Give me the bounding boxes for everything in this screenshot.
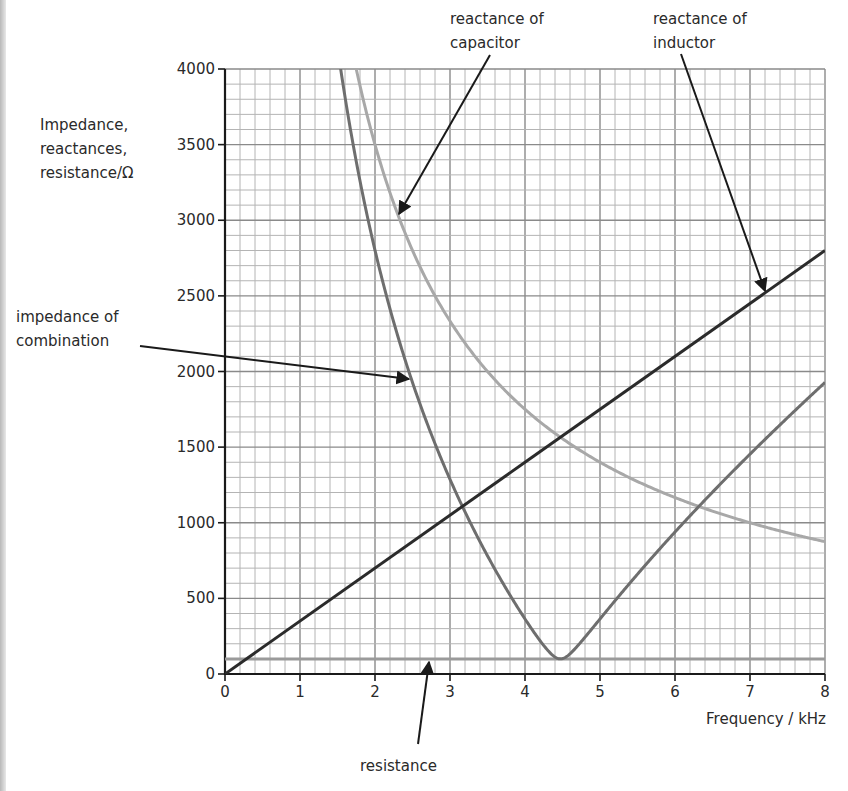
x-tick-label: 1 (295, 683, 305, 701)
x-tick-label: 6 (670, 683, 680, 701)
y-axis-label: reactances, (40, 140, 127, 158)
chart-grid (225, 69, 825, 674)
annotation-impedance-label: impedance of (16, 308, 119, 326)
y-tick-label: 2000 (177, 363, 215, 381)
annotation-inductor-label: reactance of (653, 10, 748, 28)
y-tick-label: 0 (205, 665, 215, 683)
annotation-resistance-label: resistance (360, 757, 437, 775)
y-tick-label: 1500 (177, 438, 215, 456)
y-tick-label: 500 (186, 589, 215, 607)
annotation-inductor-arrow (681, 54, 765, 291)
x-tick-label: 7 (745, 683, 755, 701)
y-axis-label: Impedance, (40, 116, 128, 134)
annotation-impedance-label: combination (16, 332, 109, 350)
x-tick-label: 3 (445, 683, 455, 701)
impedance-chart: 0500100015002000250030003500400001234567… (0, 0, 848, 791)
x-tick-label: 8 (820, 683, 830, 701)
y-tick-label: 3500 (177, 136, 215, 154)
y-tick-label: 1000 (177, 514, 215, 532)
x-tick-label: 4 (520, 683, 530, 701)
x-axis-label: Frequency / kHz (706, 710, 826, 728)
x-tick-label: 5 (595, 683, 605, 701)
annotation-inductor-label: inductor (653, 34, 716, 52)
y-tick-label: 4000 (177, 60, 215, 78)
annotation-capacitor-label: capacitor (450, 34, 521, 52)
x-tick-label: 0 (220, 683, 230, 701)
annotation-capacitor-label: reactance of (450, 10, 545, 28)
y-tick-label: 3000 (177, 211, 215, 229)
x-tick-label: 2 (370, 683, 380, 701)
y-axis-label: resistance/Ω (40, 164, 133, 182)
y-tick-label: 2500 (177, 287, 215, 305)
impedance-curve (334, 20, 825, 658)
